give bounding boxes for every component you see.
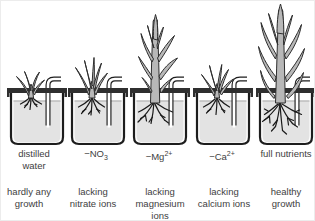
label-text: −Ca — [209, 151, 227, 162]
label-text: −Mg — [146, 151, 165, 162]
unit-minus-magnesium — [130, 15, 190, 145]
beaker-label-no3: −NO3 — [60, 148, 132, 164]
unit-minus-calcium — [193, 65, 253, 145]
beaker-label-mg: −Mg2+ — [123, 148, 195, 163]
plant-icon — [17, 72, 45, 99]
unit-full-nutrients — [256, 4, 315, 144]
beaker-label-full-nutrients: full nutrients — [250, 148, 315, 160]
mineral-deficiency-diagram: distilled water −NO3 −Mg2+ −Ca2+ full nu… — [0, 0, 315, 221]
label-superscript: 2+ — [227, 150, 235, 157]
unit-distilled-water — [7, 72, 67, 145]
unit-minus-nitrate — [68, 58, 128, 145]
label-superscript: 2+ — [164, 150, 172, 157]
label-text: −NO — [84, 148, 104, 159]
label-subscript: 3 — [104, 154, 108, 161]
beaker-label-ca: −Ca2+ — [186, 148, 258, 163]
beaker-icon — [256, 79, 315, 144]
caption-healthy-growth: healthy growth — [247, 186, 315, 210]
